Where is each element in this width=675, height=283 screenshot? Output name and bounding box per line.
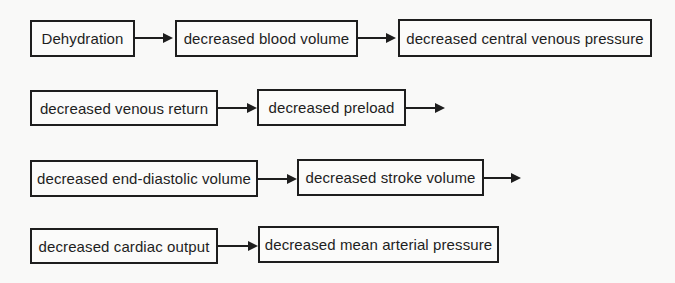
flow-box-decreased-venous-return: decreased venous return [30, 90, 218, 126]
arrow-right-icon-dehydration-to-blood-volume [135, 37, 163, 39]
flow-box-dehydration: Dehydration [30, 20, 135, 57]
flow-box-decreased-preload: decreased preload [257, 89, 406, 126]
arrow-right-icon-preload-continuation [406, 107, 435, 109]
flow-box-decreased-blood-volume: decreased blood volume [175, 20, 358, 57]
flow-box-decreased-end-diastolic-volume: decreased end-diastolic volume [30, 160, 258, 197]
flow-box-decreased-cardiac-output: decreased cardiac output [30, 228, 218, 264]
arrow-right-icon-venous-return-to-preload [218, 107, 247, 109]
arrow-right-icon-cardiac-output-to-mean-arterial-pressure [218, 245, 248, 247]
arrow-right-icon-stroke-volume-continuation [484, 177, 511, 179]
flow-box-decreased-central-venous-pressure: decreased central venous pressure [398, 19, 652, 57]
flow-box-decreased-mean-arterial-pressure: decreased mean arterial pressure [258, 226, 499, 263]
arrow-right-icon-end-diastolic-to-stroke-volume [258, 178, 287, 180]
flowchart-canvas: Dehydration decreased blood volume decre… [0, 0, 675, 283]
arrow-right-icon-blood-volume-to-central-venous-pressure [358, 37, 386, 39]
flow-box-decreased-stroke-volume: decreased stroke volume [297, 159, 484, 196]
